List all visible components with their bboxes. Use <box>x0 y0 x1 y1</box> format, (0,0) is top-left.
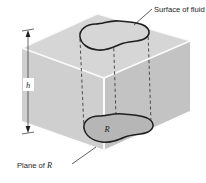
label-plane-of-r: Plane of R <box>17 161 52 170</box>
box-fluid-diagram: h Surface of fluid Plane of R R <box>0 0 206 183</box>
leader-surface-of-fluid <box>134 9 152 25</box>
label-plane-of-r-symbol: R <box>46 161 52 170</box>
label-surface-of-fluid: Surface of fluid <box>154 5 205 14</box>
region-r-blob <box>84 114 153 142</box>
label-plane-of-r-prefix: Plane of <box>17 161 47 170</box>
leader-plane-of-r <box>72 147 96 164</box>
dimension-arrow-top <box>26 30 31 37</box>
figure-container: h Surface of fluid Plane of R R <box>0 0 206 183</box>
region-label-r: R <box>103 125 109 134</box>
depth-label-h: h <box>26 81 30 90</box>
dimension-arrow-bottom <box>26 126 31 133</box>
